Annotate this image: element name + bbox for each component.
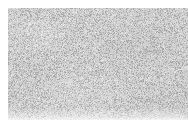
image-canvas [0,0,188,131]
texture-plate [8,8,188,120]
texture-grain-canvas [8,8,188,120]
